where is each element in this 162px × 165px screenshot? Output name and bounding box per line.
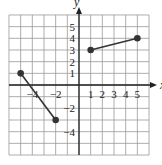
y-tick-label: 3: [70, 44, 76, 56]
closed-endpoint: [87, 47, 94, 54]
x-axis-label: x: [159, 78, 162, 92]
x-tick-label: 1: [88, 88, 94, 100]
closed-endpoint: [17, 70, 24, 77]
x-tick-label: 5: [135, 88, 141, 100]
x-tick-label: 4: [123, 88, 129, 100]
x-tick-label: 2: [100, 88, 106, 100]
y-axis-label: y: [73, 0, 80, 9]
y-tick-label: 2: [70, 56, 76, 68]
y-tick-label: 1: [70, 67, 76, 79]
y-tick-label: 4: [70, 32, 76, 44]
x-tick-label: 3: [111, 88, 117, 100]
x-arrow-icon: [150, 82, 157, 88]
x-tick-label: −2: [50, 88, 62, 100]
piecewise-graph: xy−4−21234554321−2−4: [0, 0, 162, 165]
y-tick-label: −2: [63, 102, 75, 114]
y-tick-label: 5: [70, 21, 76, 33]
y-tick-label: −4: [63, 126, 75, 138]
closed-endpoint: [134, 35, 141, 42]
closed-endpoint: [52, 117, 59, 124]
